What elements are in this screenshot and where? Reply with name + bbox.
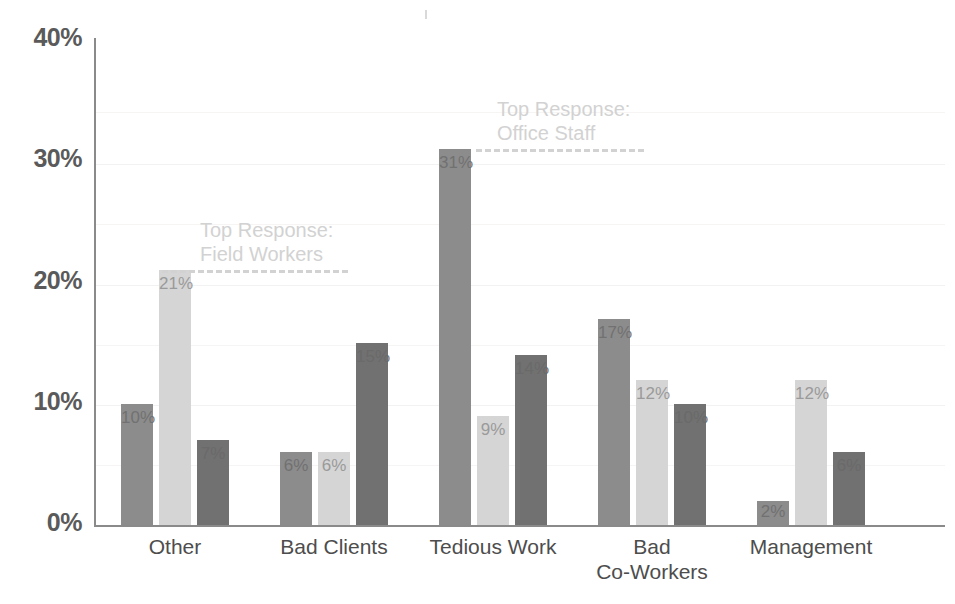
bar-value-label: 12% [795, 384, 827, 404]
category-label-5: Management [727, 534, 895, 559]
y-axis-line [94, 38, 96, 527]
annotation-dashline-office-staff [476, 149, 644, 152]
bar-chart: 0%10%20%30%40% 10%21%7%6%6%15%31%9%14%17… [0, 0, 955, 604]
bar-4-1: 17% [598, 319, 630, 525]
y-tick-label-20: 20% [33, 266, 82, 295]
annotation-office-staff: Top Response: Office Staff [497, 97, 630, 145]
bar-5-1: 2% [757, 501, 789, 525]
scan-artifact-mark [425, 10, 427, 19]
bar-2-1: 6% [280, 452, 312, 525]
x-axis-line [94, 525, 945, 527]
y-tick-label-40: 40% [33, 23, 82, 52]
gridline-30 [95, 164, 945, 165]
bar-2-3: 15% [356, 343, 388, 525]
bar-value-label: 10% [674, 408, 706, 428]
bar-1-3: 7% [197, 440, 229, 525]
bar-5-3: 6% [833, 452, 865, 525]
y-tick-label-30: 30% [33, 144, 82, 173]
bar-value-label: 6% [833, 456, 865, 476]
bar-3-3: 14% [515, 355, 547, 525]
bar-value-label: 9% [477, 420, 509, 440]
bar-value-label: 2% [757, 502, 789, 522]
bar-value-label: 10% [121, 408, 153, 428]
category-label-3: Tedious Work [409, 534, 577, 559]
gridline-20 [95, 285, 945, 286]
bar-value-label: 12% [636, 384, 668, 404]
annotation-field-workers: Top Response: Field Workers [200, 218, 333, 266]
bar-value-label: 15% [356, 347, 388, 367]
bar-2-2: 6% [318, 452, 350, 525]
y-tick-label-10: 10% [33, 387, 82, 416]
bar-value-label: 21% [159, 274, 191, 294]
bar-4-3: 10% [674, 404, 706, 525]
bar-1-1: 10% [121, 404, 153, 525]
bar-value-label: 7% [197, 444, 229, 464]
category-label-2: Bad Clients [250, 534, 418, 559]
gridline-15 [95, 345, 945, 346]
bar-1-2: 21% [159, 270, 191, 525]
bar-value-label: 17% [598, 323, 630, 343]
bar-value-label: 6% [280, 456, 312, 476]
category-label-1: Other [91, 534, 259, 559]
bar-3-1: 31% [439, 149, 471, 525]
y-tick-label-0: 0% [47, 508, 82, 537]
annotation-dashline-field-workers [162, 270, 348, 273]
bar-value-label: 31% [439, 153, 471, 173]
bar-4-2: 12% [636, 380, 668, 526]
bar-5-2: 12% [795, 380, 827, 526]
bar-3-2: 9% [477, 416, 509, 525]
category-label-4: Bad Co-Workers [568, 534, 736, 584]
bar-value-label: 6% [318, 456, 350, 476]
bar-value-label: 14% [515, 359, 547, 379]
